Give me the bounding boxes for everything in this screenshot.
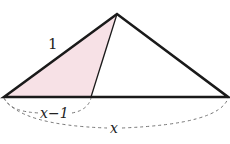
label-x-minus-1: x−1 xyxy=(40,105,69,121)
label-side-1: 1 xyxy=(48,35,58,53)
triangle-diagram: 1 x−1 x xyxy=(0,0,230,144)
label-x: x xyxy=(110,120,118,136)
diagram-canvas: 1 x−1 x xyxy=(0,0,230,144)
